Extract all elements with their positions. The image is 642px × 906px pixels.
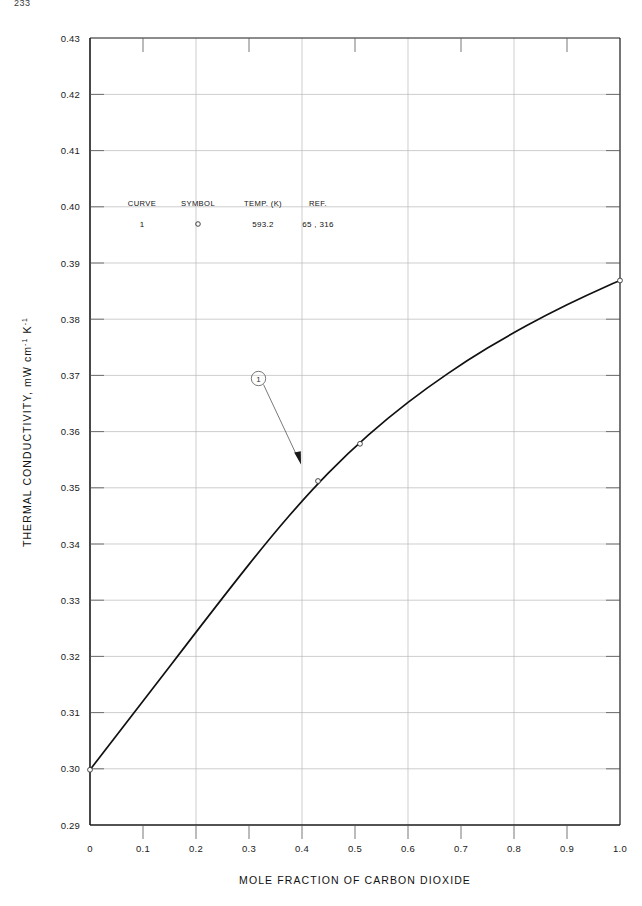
x-tick-marks	[143, 825, 567, 839]
y-tick-label: 0.40	[61, 201, 80, 212]
data-marker	[316, 479, 321, 484]
data-curve-1	[90, 281, 620, 770]
svg-text:THERMAL CONDUCTIVITY, mW cm-1: THERMAL CONDUCTIVITY, mW cm-1 K-1	[21, 317, 33, 547]
legend-cell-curve: 1	[140, 220, 145, 229]
legend-header-symbol: SYMBOL	[181, 199, 215, 208]
y-tick-label: 0.29	[61, 820, 80, 831]
y-tick-label: 0.30	[61, 763, 80, 774]
y-tick-label: 0.31	[61, 707, 80, 718]
x-tick-label: 0.1	[136, 843, 150, 854]
x-tick-label: 0.5	[348, 843, 362, 854]
legend-row: 1 593.2 65 , 316	[140, 220, 334, 229]
legend-header-curve: CURVE	[128, 199, 156, 208]
y-tick-label: 0.34	[61, 539, 80, 550]
y-tick-label: 0.37	[61, 370, 80, 381]
chart-canvas: 0.29 0.30 0.31 0.32 0.33 0.34 0.35 0.36 …	[0, 0, 642, 906]
y-tick-label: 0.41	[61, 145, 80, 156]
x-tick-marks-top	[143, 38, 567, 52]
x-tick-label: 0.8	[507, 843, 521, 854]
x-tick-label: 0.6	[401, 843, 415, 854]
y-tick-label: 0.35	[61, 482, 80, 493]
curve-annotation-1: 1	[251, 371, 301, 464]
curve-annotation-arrowhead-icon	[294, 451, 301, 464]
data-marker	[88, 767, 93, 772]
y-tick-label: 0.42	[61, 89, 80, 100]
legend-table: CURVE SYMBOL TEMP. (K) REF. 1 593.2 65 ,…	[128, 199, 334, 229]
x-tick-label: 0	[87, 843, 92, 854]
y-axis-title-mid: K	[21, 325, 33, 337]
y-tick-label: 0.32	[61, 651, 80, 662]
x-tick-label: 1.0	[613, 843, 627, 854]
data-marker	[358, 441, 363, 446]
y-tick-label: 0.38	[61, 314, 80, 325]
curve-annotation-leader-line	[264, 385, 298, 457]
figure-container: 233	[0, 0, 642, 906]
y-tick-marks	[90, 94, 104, 768]
y-tick-marks-right	[606, 94, 620, 768]
x-tick-label: 0.4	[295, 843, 309, 854]
y-tick-label: 0.39	[61, 258, 80, 269]
y-tick-label: 0.33	[61, 595, 80, 606]
x-tick-label: 0.7	[454, 843, 468, 854]
y-tick-label: 0.36	[61, 426, 80, 437]
x-tick-labels: 0 0.1 0.2 0.3 0.4 0.5 0.6 0.7 0.8 0.9 1.…	[87, 843, 627, 854]
legend-symbol-open-circle-icon	[196, 222, 201, 227]
data-markers	[88, 278, 623, 772]
y-axis-title-sup1: -1	[21, 337, 28, 345]
y-axis-title-sup2: -1	[21, 317, 28, 325]
x-tick-label: 0.9	[560, 843, 574, 854]
legend-header-temp: TEMP. (K)	[244, 199, 282, 208]
curve-annotation-label: 1	[256, 375, 261, 384]
x-axis-title: MOLE FRACTION OF CARBON DIOXIDE	[239, 874, 471, 886]
data-marker	[618, 278, 623, 283]
x-tick-label: 0.3	[242, 843, 256, 854]
x-tick-label: 0.2	[189, 843, 203, 854]
legend-header-ref: REF.	[309, 199, 327, 208]
y-axis-title-group: THERMAL CONDUCTIVITY, mW cm-1 K-1	[21, 317, 33, 547]
y-tick-label: 0.43	[61, 33, 80, 44]
y-tick-labels: 0.29 0.30 0.31 0.32 0.33 0.34 0.35 0.36 …	[61, 33, 80, 831]
legend-cell-temp: 593.2	[252, 220, 274, 229]
y-axis-title: THERMAL CONDUCTIVITY, mW cm	[21, 346, 33, 547]
legend-cell-ref: 65 , 316	[302, 220, 334, 229]
